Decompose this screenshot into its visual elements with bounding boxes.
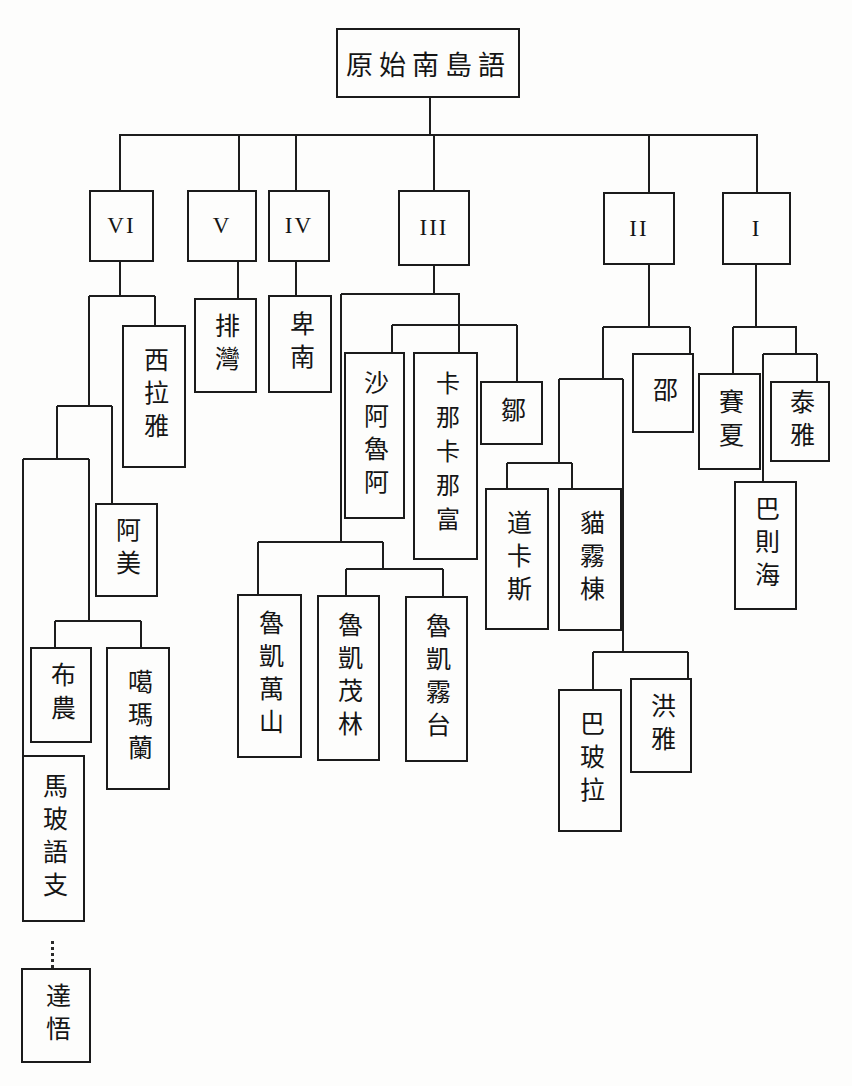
connector xyxy=(433,135,435,190)
connector xyxy=(755,265,757,327)
node-bunun-label: 布農 xyxy=(49,662,74,728)
connector xyxy=(603,326,690,328)
node-rukai-wanshan-label: 魯凱萬山 xyxy=(257,610,282,742)
connector xyxy=(429,98,431,135)
node-thao: 邵 xyxy=(632,353,694,433)
connector xyxy=(140,621,142,647)
connector xyxy=(258,541,383,543)
node-atayal-label: 泰雅 xyxy=(788,389,813,455)
node-bunun: 布農 xyxy=(30,647,92,743)
connector xyxy=(56,406,58,459)
node-papora: 巴玻拉 xyxy=(558,689,622,832)
branch-i-label: I xyxy=(752,216,762,242)
node-branch-vi: VI xyxy=(89,190,154,262)
connector xyxy=(816,354,818,381)
branch-iv-label: IV xyxy=(285,213,313,239)
connector xyxy=(295,135,297,190)
node-hoanya: 洪雅 xyxy=(630,678,692,773)
connector xyxy=(559,378,623,380)
node-puyuma-label: 卑南 xyxy=(288,311,313,377)
node-tao: 達悟 xyxy=(21,968,91,1063)
connector xyxy=(648,265,650,327)
language-family-tree-diagram: 原始南島語 VI V IV III II I 排灣 卑南 西拉雅 阿美 布農 噶… xyxy=(0,0,852,1086)
connector xyxy=(391,325,393,352)
connector xyxy=(154,296,156,325)
connector xyxy=(340,294,342,542)
node-siraya: 西拉雅 xyxy=(122,325,186,468)
node-papora-label: 巴玻拉 xyxy=(578,711,603,810)
node-saaroa: 沙阿魯阿 xyxy=(344,352,405,519)
connector xyxy=(119,135,121,190)
node-taokas: 道卡斯 xyxy=(485,488,549,630)
connector xyxy=(648,135,650,192)
connector xyxy=(119,262,121,296)
node-saaroa-label: 沙阿魯阿 xyxy=(362,370,387,502)
node-tsou: 鄒 xyxy=(480,381,543,445)
connector xyxy=(571,463,573,488)
connector xyxy=(88,296,90,406)
node-root: 原始南島語 xyxy=(336,28,520,98)
connector xyxy=(687,652,689,678)
node-rukai-wanshan: 魯凱萬山 xyxy=(237,594,302,758)
node-malayo-polynesian-label: 馬玻語支 xyxy=(41,773,66,905)
connector xyxy=(732,327,734,373)
node-branch-ii: II xyxy=(603,192,675,265)
connector xyxy=(54,621,56,647)
node-kanakanavu-label: 卡那卡那富 xyxy=(434,371,458,541)
connector xyxy=(257,542,259,594)
connector xyxy=(442,569,444,596)
connector xyxy=(592,652,594,689)
connector xyxy=(23,458,89,460)
connector xyxy=(341,293,460,295)
node-pazeh-label: 巴則海 xyxy=(753,496,778,595)
node-branch-iv: IV xyxy=(268,190,330,262)
node-branch-iii: III xyxy=(398,190,470,266)
node-tao-label: 達悟 xyxy=(44,983,69,1049)
connector xyxy=(238,135,240,190)
node-rukai-maolin: 魯凱茂林 xyxy=(317,595,380,761)
node-rukai-wutai-label: 魯凱霧台 xyxy=(424,613,449,745)
node-thao-label: 邵 xyxy=(651,377,676,410)
node-babuza-label: 貓霧棟 xyxy=(578,510,603,609)
node-tsou-label: 鄒 xyxy=(499,397,524,430)
connector xyxy=(763,353,817,355)
node-paiwan-label: 排灣 xyxy=(213,313,238,379)
branch-vi-label: VI xyxy=(107,213,135,239)
node-kavalan-label: 噶瑪蘭 xyxy=(126,669,151,768)
branch-v-label: V xyxy=(213,213,232,239)
node-rukai-wutai: 魯凱霧台 xyxy=(405,596,468,762)
connector xyxy=(57,405,112,407)
connector xyxy=(346,568,443,570)
connector xyxy=(622,379,624,652)
connector xyxy=(733,326,797,328)
connector xyxy=(89,295,155,297)
node-puyuma: 卑南 xyxy=(268,295,332,393)
node-saisiyat: 賽夏 xyxy=(698,373,761,470)
connector xyxy=(111,406,113,503)
connector xyxy=(756,135,758,192)
connector xyxy=(507,462,572,464)
connector xyxy=(237,262,239,298)
connector xyxy=(602,327,604,379)
connector xyxy=(795,327,797,354)
connector xyxy=(119,134,758,136)
connector xyxy=(506,463,508,488)
node-malayo-polynesian: 馬玻語支 xyxy=(22,755,85,922)
node-amis: 阿美 xyxy=(95,503,158,597)
node-kanakanavu: 卡那卡那富 xyxy=(413,352,478,560)
connector xyxy=(689,327,691,353)
branch-ii-label: II xyxy=(629,216,648,242)
node-kavalan: 噶瑪蘭 xyxy=(106,647,170,790)
node-amis-label: 阿美 xyxy=(114,517,139,583)
connector xyxy=(88,459,90,621)
node-paiwan: 排灣 xyxy=(194,298,257,393)
connector xyxy=(55,620,141,622)
node-branch-v: V xyxy=(187,190,257,262)
node-saisiyat-label: 賽夏 xyxy=(717,389,742,455)
node-hoanya-label: 洪雅 xyxy=(649,693,674,759)
connector xyxy=(433,266,435,294)
node-taokas-label: 道卡斯 xyxy=(505,510,530,609)
connector xyxy=(516,325,518,381)
node-babuza: 貓霧棟 xyxy=(558,488,622,631)
node-branch-i: I xyxy=(722,192,791,265)
